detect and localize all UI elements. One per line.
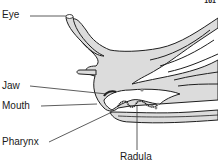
snail-anatomy-diagram: 161 Eye Jaw Mouth Pharynx Radula [0, 0, 218, 166]
eye-tip [66, 15, 73, 19]
granule [157, 103, 160, 106]
lower-tentacle [77, 70, 96, 75]
granule [140, 88, 143, 91]
label-pharynx: Pharynx [2, 137, 39, 147]
label-eye: Eye [2, 10, 19, 20]
granule [155, 107, 158, 110]
mouth-leader [41, 104, 97, 106]
label-radula: Radula [120, 152, 152, 162]
pharynx-leader [49, 112, 112, 142]
granule [150, 104, 153, 107]
label-mouth: Mouth [2, 101, 30, 111]
label-jaw: Jaw [2, 81, 20, 91]
page-number: 161 [204, 0, 216, 4]
